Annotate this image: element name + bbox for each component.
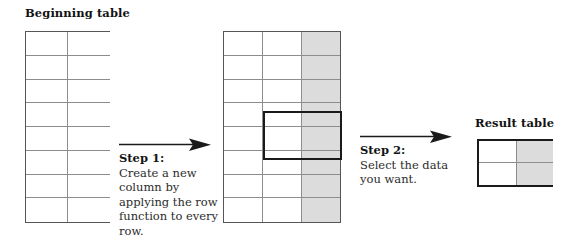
table-cell — [263, 198, 302, 222]
table-cell-shaded — [302, 127, 340, 151]
table-cell — [263, 127, 302, 151]
table-cell — [263, 80, 302, 104]
table-cell-shaded — [302, 175, 340, 199]
table-cell-shaded — [302, 56, 340, 80]
beginning-table — [25, 31, 110, 223]
table-cell-shaded — [517, 141, 553, 163]
table-cell-shaded — [302, 103, 340, 127]
table-cell — [26, 151, 68, 175]
table-cell — [26, 198, 68, 222]
table-cell-shaded — [302, 151, 340, 175]
table-cell — [224, 175, 263, 199]
step-1-caption: Step 1: Create a new column by applying … — [119, 151, 219, 238]
step-2-caption: Step 2: Select the data you want. — [360, 143, 460, 187]
beginning-table-title: Beginning table — [25, 6, 130, 20]
table-cell — [68, 127, 110, 151]
table-cell — [68, 103, 110, 127]
table-cell — [68, 151, 110, 175]
diagram-canvas: Beginning table Step 1: Create a new col… — [0, 0, 578, 245]
table-cell — [68, 80, 110, 104]
table-cell — [224, 151, 263, 175]
table-cell — [26, 127, 68, 151]
table-cell-shaded — [302, 32, 340, 56]
step-1-arrow-right-icon — [119, 138, 211, 152]
step-1-body: Create a new column by applying the row … — [119, 166, 219, 239]
table-cell — [224, 32, 263, 56]
table-cell — [224, 56, 263, 80]
middle-table — [223, 31, 341, 223]
table-cell — [224, 127, 263, 151]
table-cell — [263, 103, 302, 127]
table-cell-shaded — [517, 163, 553, 185]
table-cell-shaded — [302, 198, 340, 222]
table-cell — [68, 175, 110, 199]
table-cell — [224, 80, 263, 104]
result-table — [477, 139, 553, 187]
table-cell — [263, 175, 302, 199]
table-cell — [479, 141, 517, 163]
table-cell — [224, 198, 263, 222]
result-table-title: Result table — [475, 116, 554, 130]
table-cell — [263, 151, 302, 175]
table-cell — [224, 103, 263, 127]
step-2-heading: Step 2: — [360, 143, 460, 158]
table-cell — [26, 175, 68, 199]
step-1-heading: Step 1: — [119, 151, 219, 166]
table-cell — [68, 56, 110, 80]
table-cell — [26, 80, 68, 104]
step-2-body: Select the data you want. — [360, 158, 460, 187]
table-cell — [479, 163, 517, 185]
table-cell — [68, 32, 110, 56]
table-cell — [26, 32, 68, 56]
table-cell — [263, 56, 302, 80]
table-cell — [26, 56, 68, 80]
step-2-arrow-right-icon — [360, 130, 452, 144]
table-cell — [263, 32, 302, 56]
table-cell — [26, 103, 68, 127]
table-cell — [68, 198, 110, 222]
table-cell-shaded — [302, 80, 340, 104]
